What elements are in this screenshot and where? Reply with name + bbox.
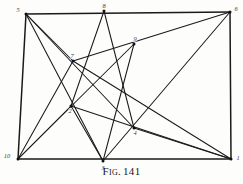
vertex-10 [17, 158, 20, 161]
vertex-6 [229, 11, 232, 14]
edge-7-1 [73, 61, 231, 159]
figure-container: 58697241031 Fig.141 [0, 0, 243, 184]
vertex-1 [230, 158, 233, 161]
edge-4-1 [134, 128, 231, 159]
vertex-label-1: 1 [236, 154, 239, 161]
vertex-label-10: 10 [4, 152, 11, 159]
edge-5-4 [26, 14, 134, 128]
frame-edge-5-10 [18, 14, 26, 159]
figure-caption: Fig.141 [0, 165, 243, 177]
inner-edges-group [18, 11, 231, 161]
frame-edge-6-1 [230, 12, 231, 159]
vertex-label-6: 6 [234, 5, 238, 12]
edge-7-10 [18, 61, 73, 159]
edge-6-7 [73, 12, 230, 61]
caption-prefix: Fig. [103, 165, 122, 177]
vertex-8 [103, 10, 106, 13]
vertex-label-4: 4 [133, 129, 137, 136]
edge-2-10 [18, 106, 71, 159]
vertex-3 [102, 160, 105, 163]
caption-number: 141 [123, 165, 140, 177]
frame-edge-5-6 [26, 12, 230, 14]
vertex-5 [25, 13, 28, 16]
vertex-label-8: 8 [102, 2, 106, 9]
vertex-label-5: 5 [16, 6, 19, 13]
frame-edges-group [18, 12, 231, 159]
edge-2-3 [71, 106, 103, 161]
graph-diagram: 58697241031 [0, 0, 243, 184]
vertex-9 [133, 43, 136, 46]
vertex-label-7: 7 [70, 52, 74, 59]
vertex-7 [72, 60, 75, 63]
